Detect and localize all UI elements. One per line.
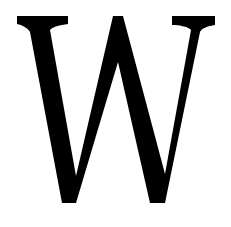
- serif-w-logo: W: [0, 0, 231, 227]
- w-letter-icon: [0, 0, 231, 227]
